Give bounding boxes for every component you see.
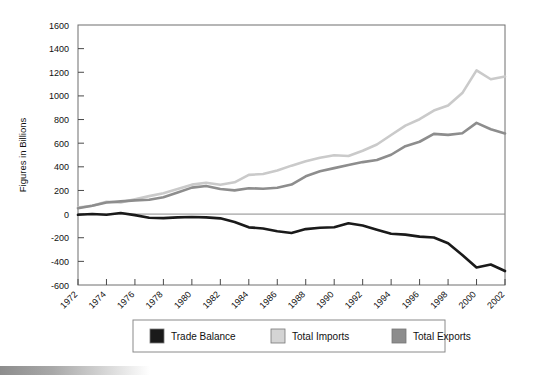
x-axis-tick-label: 1980 (172, 289, 193, 310)
y-axis-tick-label: 1200 (49, 68, 69, 78)
chart-figure: 16001400120010008006004002000-200-400-60… (0, 0, 540, 380)
x-axis-tick-label: 1984 (229, 289, 250, 310)
x-axis-tick-label: 1972 (58, 289, 79, 310)
x-axis-tick-label: 1974 (87, 289, 108, 310)
legend-label-total-exports: Total Exports (413, 331, 471, 342)
legend-label-total-imports: Total Imports (292, 331, 349, 342)
x-axis-tick-label: 1996 (400, 289, 421, 310)
x-axis-tick-label: 1988 (286, 289, 307, 310)
legend-swatch-total-exports (392, 329, 406, 343)
trade-line-chart: 16001400120010008006004002000-200-400-60… (0, 0, 540, 380)
y-axis-tick-label: 800 (54, 115, 69, 125)
legend-swatch-total-imports (271, 329, 285, 343)
y-axis-tick-label: 200 (54, 186, 69, 196)
y-axis-tick-label: -600 (51, 281, 69, 291)
y-axis-tick-label: 1600 (49, 21, 69, 31)
legend-swatch-trade-balance (150, 329, 164, 343)
x-axis-tick-label: 1990 (314, 289, 335, 310)
x-axis-tick-label: 1978 (144, 289, 165, 310)
x-axis-tick-label: 1982 (201, 289, 222, 310)
y-axis-tick-label: 1400 (49, 44, 69, 54)
y-axis-tick-label: -400 (51, 257, 69, 267)
plot-area-frame (78, 25, 505, 285)
x-axis-tick-label: 1976 (115, 289, 136, 310)
x-axis-tick-label: 2000 (457, 289, 478, 310)
y-axis-tick-label: 1000 (49, 91, 69, 101)
legend-label-trade-balance: Trade Balance (171, 331, 236, 342)
x-axis-tick-label: 2002 (485, 289, 506, 310)
x-axis-tick-label: 1994 (371, 289, 392, 310)
y-axis-title: Figures in Billions (17, 118, 28, 193)
x-axis-tick-label: 1998 (428, 289, 449, 310)
y-axis-tick-label: 400 (54, 162, 69, 172)
y-axis-tick-label: 0 (64, 210, 69, 220)
y-axis-tick-label: -200 (51, 233, 69, 243)
y-axis-tick-label: 600 (54, 139, 69, 149)
x-axis-tick-label: 1986 (257, 289, 278, 310)
x-axis-tick-label: 1992 (343, 289, 364, 310)
